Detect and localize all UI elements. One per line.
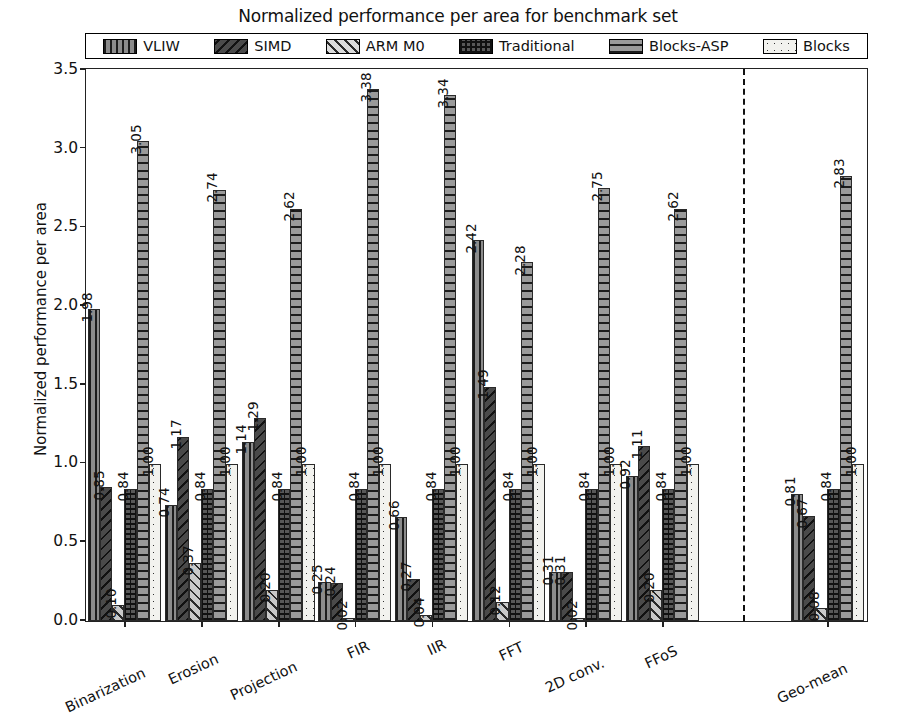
bar-group-binarization: 1.980.850.100.843.051.00: [88, 69, 165, 621]
bar-traditional[interactable]: 0.84: [662, 489, 674, 621]
bar-value-label: 2.62: [667, 192, 681, 222]
legend-label: SIMD: [254, 38, 291, 54]
bar-blocks-asp[interactable]: 3.34: [444, 95, 456, 621]
bar-value-label: 1.00: [844, 447, 858, 477]
bar-value-label: 2.83: [832, 159, 846, 189]
bar-vliw[interactable]: 1.98: [88, 309, 100, 621]
bar-value-label: 1.98: [80, 292, 94, 322]
x-tick-label-projection: Projection: [228, 658, 300, 703]
bar-value-label: 0.02: [566, 601, 580, 631]
bar-arm-m0[interactable]: 0.02: [573, 618, 585, 621]
bar-blocks[interactable]: 1.00: [852, 464, 864, 621]
x-tick-mark: [509, 621, 511, 627]
bar-arm-m0[interactable]: 0.37: [189, 563, 201, 621]
x-tick-mark: [201, 621, 203, 627]
bar-value-label: 2.62: [283, 192, 297, 222]
bar-value-label: 0.84: [347, 472, 361, 502]
bar-simd[interactable]: 1.17: [177, 437, 189, 621]
bar-blocks-asp[interactable]: 2.28: [521, 262, 533, 621]
legend-item-traditional[interactable]: Traditional: [459, 38, 575, 54]
bar-traditional[interactable]: 0.84: [201, 489, 213, 621]
bar-value-label: 1.00: [449, 447, 463, 477]
bar-value-label: 2.74: [206, 173, 220, 203]
bar-blocks[interactable]: 1.00: [533, 464, 545, 621]
chart-legend: VLIWSIMDARM M0TraditionalBlocks-ASPBlock…: [85, 33, 868, 59]
legend-item-arm-m0[interactable]: ARM M0: [326, 38, 425, 54]
bar-value-label: 0.74: [157, 488, 171, 518]
bar-value-label: 1.00: [525, 447, 539, 477]
legend-item-vliw[interactable]: VLIW: [103, 38, 180, 54]
legend-label: Traditional: [499, 38, 575, 54]
plot-area: 0.00.51.01.52.02.53.03.51.980.850.100.84…: [85, 68, 868, 622]
bar-blocks-asp[interactable]: 2.62: [674, 209, 686, 621]
bar-blocks[interactable]: 1.00: [379, 464, 391, 621]
bar-group-2d-conv-: 0.310.310.020.842.751.00: [549, 69, 626, 621]
bar-blocks-asp[interactable]: 2.74: [213, 190, 225, 621]
bar-traditional[interactable]: 0.84: [278, 489, 290, 621]
x-tick-mark: [662, 621, 664, 627]
chart-figure: Normalized performance per area for benc…: [0, 0, 916, 720]
bar-blocks[interactable]: 1.00: [226, 464, 238, 621]
bar-vliw[interactable]: 0.74: [165, 505, 177, 621]
legend-item-blocks[interactable]: Blocks: [763, 38, 850, 54]
bar-value-label: 3.34: [436, 78, 450, 108]
bar-arm-m0[interactable]: 0.10: [112, 605, 124, 621]
bar-blocks-asp[interactable]: 3.05: [137, 141, 149, 621]
bar-value-label: 0.84: [578, 472, 592, 502]
bar-group-erosion: 0.741.170.370.842.741.00: [165, 69, 242, 621]
bar-arm-m0[interactable]: 0.20: [650, 590, 662, 621]
bar-vliw[interactable]: 2.42: [472, 240, 484, 621]
y-tick-mark: [80, 68, 86, 70]
bar-value-label: 1.00: [372, 447, 386, 477]
bar-value-label: 0.02: [335, 601, 349, 631]
bar-blocks[interactable]: 1.00: [456, 464, 468, 621]
bar-traditional[interactable]: 0.84: [355, 489, 367, 621]
bar-value-label: 1.00: [295, 447, 309, 477]
bar-arm-m0[interactable]: 0.20: [266, 590, 278, 621]
bar-blocks-asp[interactable]: 2.62: [290, 209, 302, 621]
bar-value-label: 0.31: [554, 555, 568, 585]
legend-item-blocks-asp[interactable]: Blocks-ASP: [609, 38, 729, 54]
bar-value-label: 0.37: [182, 546, 196, 576]
x-tick-mark: [585, 621, 587, 627]
bar-arm-m0[interactable]: 0.12: [496, 602, 508, 621]
bar-traditional[interactable]: 0.84: [509, 489, 521, 621]
bar-blocks-asp[interactable]: 2.83: [840, 176, 852, 621]
legend-label: ARM M0: [366, 38, 425, 54]
legend-label: VLIW: [143, 38, 180, 54]
bar-value-label: 3.05: [129, 124, 143, 154]
x-tick-mark: [355, 621, 357, 627]
y-tick-mark: [80, 147, 86, 149]
x-tick-mark: [124, 621, 126, 627]
bar-blocks-asp[interactable]: 3.38: [367, 89, 379, 621]
bar-group-iir: 0.660.270.040.843.341.00: [395, 69, 472, 621]
bar-traditional[interactable]: 0.84: [827, 489, 839, 621]
bar-value-label: 1.49: [477, 370, 491, 400]
bar-value-label: 0.84: [820, 472, 834, 502]
bar-value-label: 0.84: [424, 472, 438, 502]
legend-label: Blocks-ASP: [649, 38, 729, 54]
bar-value-label: 1.00: [141, 447, 155, 477]
bar-arm-m0[interactable]: 0.02: [343, 618, 355, 621]
bar-value-label: 0.12: [489, 585, 503, 615]
bar-blocks-asp[interactable]: 2.75: [598, 188, 610, 621]
bar-traditional[interactable]: 0.84: [432, 489, 444, 621]
bar-value-label: 2.42: [465, 223, 479, 253]
bar-value-label: 0.20: [643, 573, 657, 603]
bar-value-label: 0.66: [388, 500, 402, 530]
bar-vliw[interactable]: 1.14: [242, 442, 254, 621]
x-tick-label-fft: FFT: [496, 639, 526, 664]
bar-arm-m0[interactable]: 0.08: [815, 608, 827, 621]
bar-vliw[interactable]: 0.92: [626, 476, 638, 621]
bar-value-label: 0.85: [93, 470, 107, 500]
bar-arm-m0[interactable]: 0.04: [420, 615, 432, 621]
legend-item-simd[interactable]: SIMD: [214, 38, 291, 54]
bar-traditional[interactable]: 0.84: [124, 489, 136, 621]
bar-blocks[interactable]: 1.00: [302, 464, 314, 621]
bar-blocks[interactable]: 1.00: [687, 464, 699, 621]
x-tick-label-ffos: FFoS: [643, 642, 681, 671]
bar-value-label: 0.67: [796, 499, 810, 529]
x-tick-label-erosion: Erosion: [166, 651, 221, 688]
bar-traditional[interactable]: 0.84: [585, 489, 597, 621]
hatch-grid-swatch: [459, 39, 493, 54]
